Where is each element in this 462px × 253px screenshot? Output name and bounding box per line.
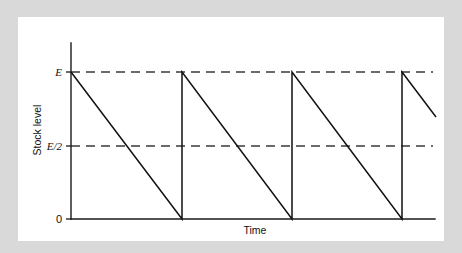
stock-level-chart: E E/2 0 Stock level Time <box>0 0 462 253</box>
y-tick-label-E: E <box>54 66 62 78</box>
y-tick-label-E-half: E/2 <box>46 140 63 152</box>
x-axis-title: Time <box>244 224 267 236</box>
y-axis-title: Stock level <box>31 105 43 156</box>
y-tick-label-zero: 0 <box>56 213 62 225</box>
figure-frame: E E/2 0 Stock level Time <box>0 0 462 253</box>
